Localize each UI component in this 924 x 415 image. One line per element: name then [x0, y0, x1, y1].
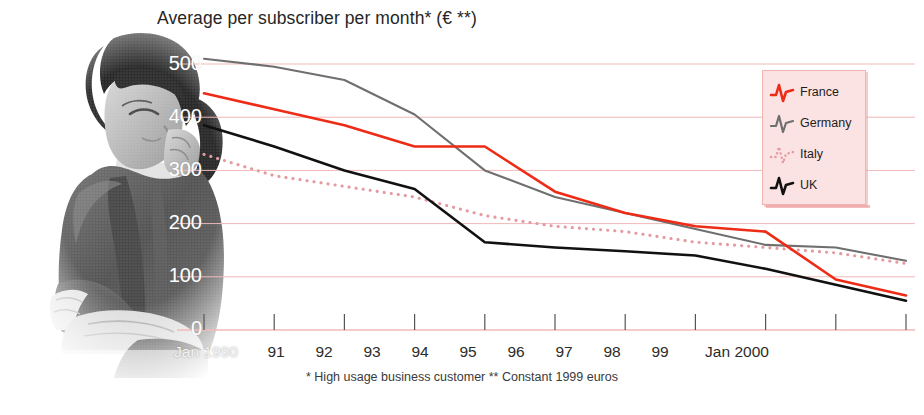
x-tick-94: 94 — [398, 344, 442, 360]
x-tick-97: 97 — [542, 344, 586, 360]
x-tick-92: 92 — [302, 344, 346, 360]
x-tick-98: 98 — [590, 344, 634, 360]
legend-item-italy[interactable]: Italy — [769, 139, 865, 169]
y-tick-200: 200 — [130, 212, 202, 232]
x-tick-99: 99 — [638, 344, 682, 360]
y-tick-100: 100 — [130, 265, 202, 285]
x-tick-jan-2000: Jan 2000 — [682, 344, 792, 360]
chart-title: Average per subscriber per month* (€ **) — [157, 8, 477, 29]
legend-label-france: France — [800, 85, 839, 99]
italy-line-icon — [769, 141, 795, 167]
legend-item-germany[interactable]: Germany — [769, 108, 865, 138]
y-tick-400: 400 — [130, 106, 202, 126]
x-tick-95: 95 — [446, 344, 490, 360]
chart-footnote: * High usage business customer ** Consta… — [0, 370, 924, 384]
uk-line-icon — [769, 172, 795, 198]
x-tick-93: 93 — [350, 344, 394, 360]
legend-shadow — [766, 205, 870, 208]
legend-label-germany: Germany — [800, 116, 851, 130]
y-tick-0: 0 — [130, 318, 202, 338]
germany-line-icon — [769, 110, 795, 136]
france-line-icon — [769, 79, 795, 105]
legend-item-uk[interactable]: UK — [769, 170, 865, 200]
axis-lines — [204, 314, 906, 330]
x-tick-96: 96 — [494, 344, 538, 360]
y-tick-500: 500 — [130, 53, 202, 73]
chart-screenshot: Average per subscriber per month* (€ **)… — [0, 0, 924, 415]
chart-legend: France Germany Italy — [762, 70, 866, 205]
legend-item-france[interactable]: France — [769, 77, 865, 107]
x-tick-jan-1990: Jan 1990 — [160, 344, 252, 360]
legend-label-italy: Italy — [800, 147, 823, 161]
legend-label-uk: UK — [800, 178, 817, 192]
x-tick-91: 91 — [254, 344, 298, 360]
y-tick-300: 300 — [130, 159, 202, 179]
